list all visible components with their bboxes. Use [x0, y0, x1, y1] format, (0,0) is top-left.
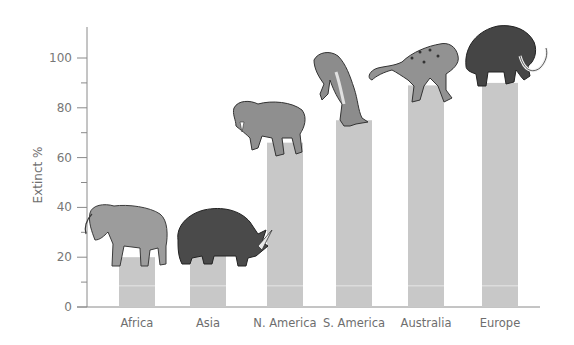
y-tick-label: 0: [64, 300, 72, 314]
bar-europe: [482, 83, 518, 307]
bar-chart: 020406080100 AfricaAsiaN. AmericaS. Amer…: [0, 0, 574, 345]
y-tick-label: 80: [57, 101, 72, 115]
woolly-mammoth-icon: [466, 26, 547, 86]
illustrations: [85, 26, 547, 266]
y-axis-title: Extinct %: [31, 147, 45, 204]
giant-ground-sloth-icon: [314, 53, 368, 126]
bar-africa: [119, 257, 155, 307]
y-tick-label: 100: [49, 51, 72, 65]
y-tick-label: 20: [57, 250, 72, 264]
bar-n-america: [267, 143, 303, 307]
y-tick-label: 60: [57, 151, 72, 165]
bars: [119, 83, 518, 307]
marsupial-lion-icon: [369, 44, 458, 103]
deinotherium-icon: [85, 205, 167, 266]
x-tick-label: N. America: [253, 316, 316, 330]
x-tick-label: Europe: [480, 316, 520, 330]
x-tick-label: S. America: [323, 316, 385, 330]
bar-australia: [408, 85, 444, 307]
x-tick-label: Asia: [196, 316, 220, 330]
y-tick-label: 40: [57, 200, 72, 214]
x-tick-label: Africa: [121, 316, 154, 330]
x-axis-labels: AfricaAsiaN. AmericaS. AmericaAustraliaE…: [121, 316, 521, 330]
bar-s-america: [336, 120, 372, 307]
x-tick-label: Australia: [401, 316, 452, 330]
